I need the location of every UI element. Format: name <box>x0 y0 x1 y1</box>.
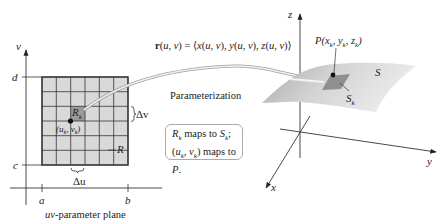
tick-b: b <box>125 194 131 206</box>
y-axis-label: y <box>426 155 432 167</box>
parameterization-label: Parameterization <box>170 90 242 101</box>
point-uk-vk <box>68 118 73 123</box>
uv-plane-caption: uv-parameter plane <box>45 209 126 220</box>
mapping-equation: r(u, v) = ⟨x(u, v), y(u, v), z(u, v)⟩ <box>155 40 292 52</box>
z-axis-label: z <box>287 8 293 20</box>
point-p <box>331 73 336 78</box>
note-line-2: (uk, vk) maps to P. <box>172 145 242 177</box>
region-r-label: R <box>116 143 124 155</box>
note-line-1: Rk maps to Sk; <box>172 127 242 145</box>
x-axis <box>266 116 310 188</box>
point-p-label: P(xk, yk, zk) <box>314 35 362 49</box>
delta-u-brace <box>71 168 84 173</box>
mapping-note: Rk maps to Sk; (uk, vk) maps to P. <box>165 124 243 160</box>
x-axis-label: x <box>270 181 276 193</box>
parameterization-diagram: v d c a b R Δv Δu Rk (uk, vk) uv-paramet… <box>0 0 442 224</box>
delta-v-label: Δv <box>136 108 149 120</box>
tick-c: c <box>13 159 18 171</box>
v-axis-label: v <box>16 40 21 52</box>
surface-3d: z y x S Sk P(xk, yk, zk) <box>262 8 436 193</box>
delta-u-label: Δu <box>73 175 86 187</box>
y-axis <box>280 129 436 152</box>
tick-a: a <box>39 194 45 206</box>
tick-d: d <box>12 71 18 83</box>
uv-plane: v d c a b R Δv Δu Rk (uk, vk) uv-paramet… <box>10 40 162 220</box>
surface-s-label: S <box>375 66 381 78</box>
point-uk-vk-label: (uk, vk) <box>56 124 80 135</box>
